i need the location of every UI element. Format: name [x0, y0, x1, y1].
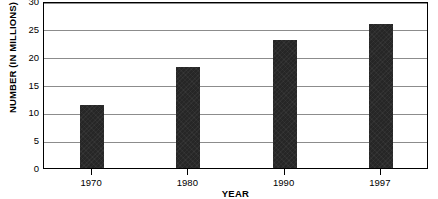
- x-axis-tick-label: 1997: [350, 177, 410, 188]
- y-axis-tick-label: 0: [14, 164, 39, 174]
- x-axis-tick-label: 1970: [61, 177, 121, 188]
- x-axis-tick: [284, 169, 285, 175]
- x-axis-tick-label: 1990: [254, 177, 314, 188]
- x-axis-tick: [91, 169, 92, 175]
- x-axis-title: YEAR: [43, 188, 428, 199]
- x-axis-tick-label: 1980: [157, 177, 217, 188]
- gridline: [44, 3, 427, 4]
- y-axis-tick-label: 10: [14, 108, 39, 118]
- y-axis-tick-label: 25: [14, 25, 39, 35]
- y-axis-tick-label: 20: [14, 53, 39, 63]
- y-axis-tick-label: 5: [14, 136, 39, 146]
- bar: [369, 24, 393, 168]
- plot-area: [43, 2, 428, 169]
- y-axis-tick-labels: 302520151050: [14, 0, 39, 199]
- x-axis-tick: [187, 169, 188, 175]
- y-axis-tick-label: 15: [14, 81, 39, 91]
- bar: [273, 40, 297, 168]
- bar-chart: NUMBER (IN MILLIONS) 302520151050 YEAR 1…: [0, 0, 438, 199]
- y-axis-tick-label: 30: [14, 0, 39, 7]
- x-axis-tick: [380, 169, 381, 175]
- bar: [80, 105, 104, 168]
- bar: [176, 67, 200, 168]
